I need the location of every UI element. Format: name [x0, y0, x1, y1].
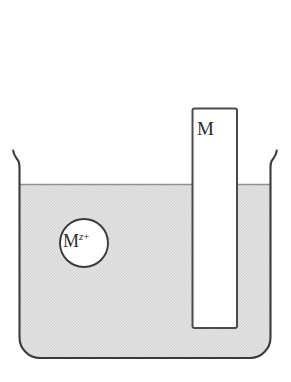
metal-electrode-bar[interactable] [193, 109, 238, 329]
half-cell-diagram [0, 0, 291, 382]
metal-ion-circle[interactable] [60, 219, 108, 267]
figure-root: M Mz+ [0, 0, 291, 382]
